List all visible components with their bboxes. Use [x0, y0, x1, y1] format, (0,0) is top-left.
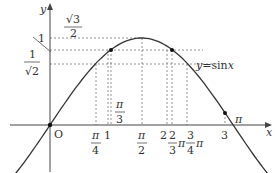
y-axis-label: y: [39, 3, 47, 16]
x-label-3pi4-den: 4: [187, 144, 194, 157]
x-label-pi2-den: 2: [138, 144, 145, 157]
point-3: [223, 111, 227, 115]
origin-point: [48, 123, 52, 127]
y-label-sqrt3-num: √3: [66, 13, 80, 26]
curve-label: y=sinx: [195, 59, 235, 72]
origin-label: O: [54, 128, 63, 141]
sine-graph: y x O 1 √3 2 1 √2 π 4 1 π 3 π 2 2 2 3 π …: [0, 0, 278, 173]
y-axis-arrow-icon: [47, 3, 53, 10]
x-label-pi3-den: 3: [116, 113, 123, 126]
point-2pi3: [170, 48, 174, 52]
x-label-3pi4-pi: π: [195, 137, 204, 150]
y-label-1: 1: [38, 32, 45, 45]
x-label-pi2-num: π: [137, 129, 146, 142]
x-label-pi4-num: π: [91, 129, 100, 142]
x-label-3: 3: [221, 129, 228, 142]
x-axis-label: x: [266, 126, 273, 139]
y-label-inv-sqrt2-den: √2: [25, 65, 39, 78]
x-label-3pi4-num: 3: [187, 129, 194, 142]
x-label-pi3-num: π: [115, 98, 124, 111]
x-label-pi4-den: 4: [92, 144, 99, 157]
x-label-2: 2: [160, 129, 167, 142]
point-pi3: [109, 48, 113, 52]
x-label-pi: π: [234, 113, 243, 126]
x-label-2pi3-num: 2: [169, 129, 176, 142]
y-label-sqrt3-den: 2: [70, 27, 77, 40]
x-label-1: 1: [104, 129, 111, 142]
x-label-2pi3-pi: π: [177, 137, 186, 150]
graph-canvas: y x O 1 √3 2 1 √2 π 4 1 π 3 π 2 2 2 3 π …: [0, 0, 278, 173]
x-label-2pi3-den: 3: [169, 144, 176, 157]
y-label-inv-sqrt2-num: 1: [29, 48, 36, 61]
guide-lines: [50, 38, 225, 125]
